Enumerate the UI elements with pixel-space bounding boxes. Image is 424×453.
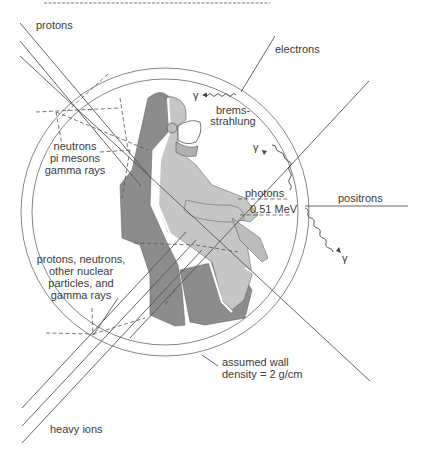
label-secondary2-1: protons, neutrons, xyxy=(37,253,126,265)
bremsstrahlung-arrowhead xyxy=(202,93,207,98)
label-photons: photons xyxy=(245,187,285,199)
label-secondary1-3: gamma rays xyxy=(45,164,106,176)
photon-arrowhead xyxy=(262,150,267,155)
label-brems-2: strahlung xyxy=(210,115,255,127)
label-protons: protons xyxy=(36,19,73,31)
label-wall-2: density = 2 g/cm xyxy=(222,368,302,380)
label-gamma-positron: γ xyxy=(342,252,348,264)
label-wall-1: assumed wall xyxy=(222,356,289,368)
label-gamma-photon: γ xyxy=(253,141,259,153)
photon-wave xyxy=(272,145,292,190)
label-gamma-brems: γ xyxy=(193,89,199,101)
label-secondary2-2: other nuclear xyxy=(49,265,114,277)
astronaut-figure xyxy=(120,92,268,326)
label-electrons: electrons xyxy=(275,43,320,55)
label-positrons: positrons xyxy=(338,192,383,204)
helmet-visor xyxy=(178,121,201,144)
radiation-diagram: protons electrons γ brems- strahlung neu… xyxy=(0,0,424,453)
label-secondary2-4: gamma rays xyxy=(51,289,112,301)
label-secondary1-2: pi mesons xyxy=(50,152,101,164)
wall-leader-line xyxy=(202,355,218,366)
bremsstrahlung-wave xyxy=(204,94,236,97)
label-heavy-ions: heavy ions xyxy=(50,423,103,435)
positron-gamma-arrowhead xyxy=(336,247,341,253)
label-secondary1-1: neutrons xyxy=(54,140,97,152)
helmet-hinge xyxy=(167,123,177,133)
label-photon-energy: 0.51 MeV xyxy=(250,203,298,215)
chin-guard xyxy=(176,142,198,157)
electrons-line xyxy=(241,36,275,92)
label-secondary2-3: particles, and xyxy=(48,277,113,289)
